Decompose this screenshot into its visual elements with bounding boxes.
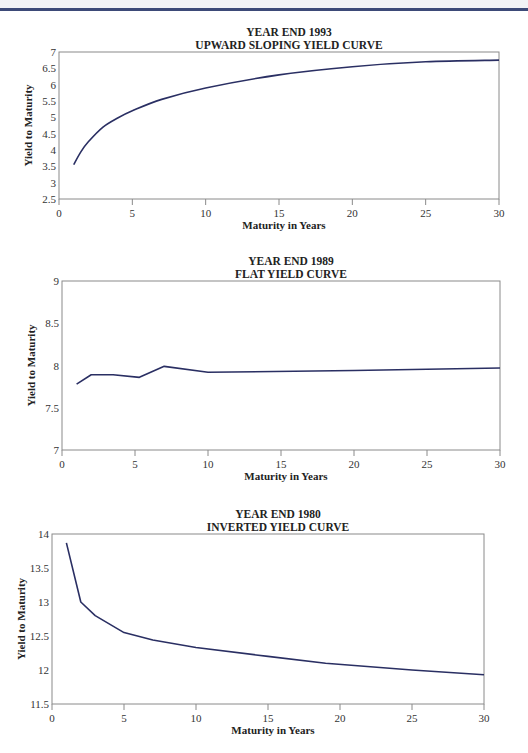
x-tick-label: 0	[49, 712, 55, 724]
chart-1980-inverted: YEAR END 1980INVERTED YIELD CURVE0510152…	[0, 0, 528, 753]
yield-curve-line	[66, 543, 484, 675]
x-tick-label: 25	[407, 712, 419, 724]
plot-frame	[52, 534, 484, 704]
y-tick-label: 11.5	[30, 698, 49, 710]
x-tick-label: 15	[263, 712, 275, 724]
y-tick-label: 12	[38, 664, 49, 676]
x-tick-label: 5	[121, 712, 127, 724]
x-tick-label: 20	[335, 712, 347, 724]
y-tick-label: 13.5	[30, 562, 50, 574]
y-axis-label: Yield to Maturity	[15, 577, 27, 660]
y-tick-label: 13	[38, 596, 50, 608]
x-tick-label: 10	[191, 712, 203, 724]
y-tick-label: 12.5	[30, 630, 50, 642]
x-axis-label: Maturity in Years	[231, 724, 315, 736]
chart-title: YEAR END 1980	[235, 508, 321, 520]
x-tick-label: 30	[479, 712, 491, 724]
y-tick-label: 14	[38, 528, 50, 540]
chart-subtitle: INVERTED YIELD CURVE	[207, 521, 350, 533]
